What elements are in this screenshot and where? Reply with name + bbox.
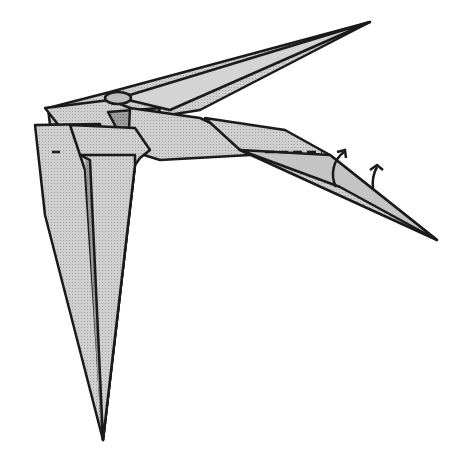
- origami-diagram: [0, 0, 467, 467]
- fold-up-arrow-2: [373, 167, 377, 190]
- upper-point-inner: [120, 22, 370, 110]
- body-top-ellipse: [105, 92, 131, 104]
- diagram-canvas: [0, 0, 467, 467]
